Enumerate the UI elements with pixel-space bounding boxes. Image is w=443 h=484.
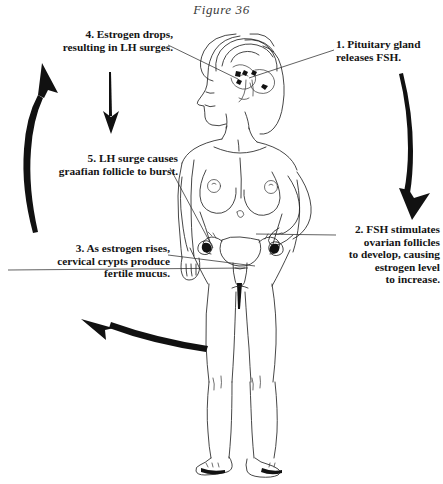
arrow-bottom-left: [109, 322, 208, 352]
annotation-5: 5. LH surge causes graafian follicle to …: [28, 152, 178, 177]
annotation-2: 2. FSH stimulates ovarian follicles to d…: [340, 223, 440, 286]
female-figure-drawing: [178, 34, 311, 478]
figure-root: Figure 36: [0, 0, 443, 484]
annotation-4: 4. Estrogen drops, resulting in LH surge…: [18, 28, 173, 53]
annotation-3: 3. As estrogen rises, cervical crypts pr…: [10, 242, 170, 280]
leader-line-2: [256, 234, 336, 235]
annotation-1: 1. Pituitary gland releases FSH.: [336, 38, 440, 63]
cycle-flow-arrows: [23, 63, 430, 352]
arrow-right-down: [399, 73, 413, 193]
arrow-down-small: [109, 72, 112, 116]
leader-line-1: [249, 50, 334, 78]
